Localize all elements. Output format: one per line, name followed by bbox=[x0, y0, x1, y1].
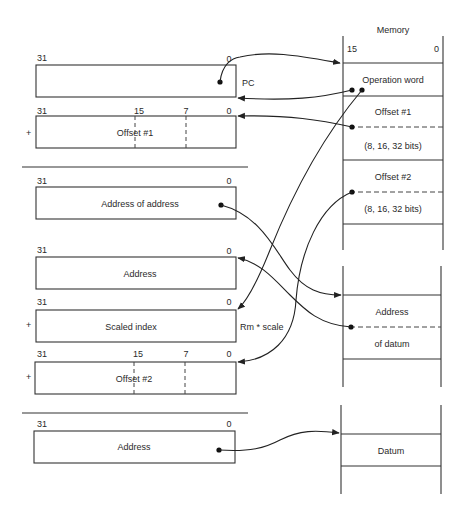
opword-to-pc-arrow bbox=[238, 90, 352, 99]
memory-cell-offset2-size: (8, 16, 32 bits) bbox=[364, 204, 422, 214]
final-address-to-datum-arrow bbox=[219, 431, 339, 450]
pc-box bbox=[36, 65, 236, 97]
addressing-mode-diagram: Memory 15 0 Operation word Offset #1 (8,… bbox=[0, 0, 466, 513]
rm-scale-label: Rm * scale bbox=[240, 322, 284, 332]
bit-label-0: 0 bbox=[226, 297, 231, 307]
bit-label-0: 0 bbox=[226, 246, 231, 256]
memory-cell-address-of-datum-line1: Address bbox=[375, 307, 409, 317]
memory-cell-offset1: Offset #1 bbox=[375, 107, 411, 117]
pc-label: PC bbox=[242, 78, 255, 88]
offset1-label: Offset #1 bbox=[117, 128, 153, 138]
memory-cell-offset1-size: (8, 16, 32 bits) bbox=[364, 141, 422, 151]
memory-cell-datum: Datum bbox=[378, 446, 405, 456]
register-offset1: + 31 15 7 0 Offset #1 bbox=[26, 106, 236, 148]
plus-sign: + bbox=[26, 128, 31, 138]
bit-label-31: 31 bbox=[37, 53, 47, 63]
register-address: 31 0 Address bbox=[36, 245, 236, 289]
memory-column: Memory 15 0 Operation word Offset #1 (8,… bbox=[341, 25, 443, 494]
memory-cell-offset2: Offset #2 bbox=[375, 172, 411, 182]
register-scaled-index: + 31 0 Scaled index Rm * scale bbox=[26, 297, 284, 342]
plus-sign: + bbox=[26, 320, 31, 330]
offset2-label: Offset #2 bbox=[116, 374, 152, 384]
pc-to-memory-arrow bbox=[220, 54, 340, 82]
memory-cell-address-of-datum-line2: of datum bbox=[374, 339, 409, 349]
bit-label-31: 31 bbox=[37, 245, 47, 255]
bit-label-15: 15 bbox=[133, 349, 143, 359]
address-of-address-label: Address of address bbox=[101, 199, 179, 209]
bit-label-0: 0 bbox=[226, 106, 231, 116]
bit-label-7: 7 bbox=[183, 106, 188, 116]
address-of-address-arrow bbox=[221, 205, 341, 295]
memory-title: Memory bbox=[377, 25, 410, 35]
register-pc: 31 0 PC bbox=[36, 53, 255, 97]
memory-bit-15: 15 bbox=[347, 44, 357, 54]
connectors bbox=[216, 54, 364, 453]
plus-sign: + bbox=[26, 372, 31, 382]
offset2-arrow bbox=[238, 192, 352, 362]
address-label: Address bbox=[123, 269, 157, 279]
bit-label-0: 0 bbox=[226, 419, 231, 429]
bit-label-0: 0 bbox=[226, 176, 231, 186]
bit-label-7: 7 bbox=[183, 349, 188, 359]
register-final-address: 31 0 Address bbox=[34, 419, 235, 463]
address-of-datum-arrow bbox=[238, 258, 351, 327]
scaled-index-label: Scaled index bbox=[105, 322, 157, 332]
bit-label-0: 0 bbox=[226, 349, 231, 359]
register-offset2: + 31 15 7 0 Offset #2 bbox=[26, 349, 236, 394]
bit-label-31: 31 bbox=[37, 106, 47, 116]
bit-label-31: 31 bbox=[37, 419, 47, 429]
bit-label-31: 31 bbox=[37, 297, 47, 307]
bit-label-31: 31 bbox=[37, 176, 47, 186]
bit-label-31: 31 bbox=[37, 349, 47, 359]
memory-bit-0: 0 bbox=[434, 44, 439, 54]
bit-label-15: 15 bbox=[134, 106, 144, 116]
memory-cell-operation-word: Operation word bbox=[362, 75, 424, 85]
final-address-label: Address bbox=[117, 442, 151, 452]
register-address-of-address: 31 0 Address of address bbox=[36, 176, 236, 219]
